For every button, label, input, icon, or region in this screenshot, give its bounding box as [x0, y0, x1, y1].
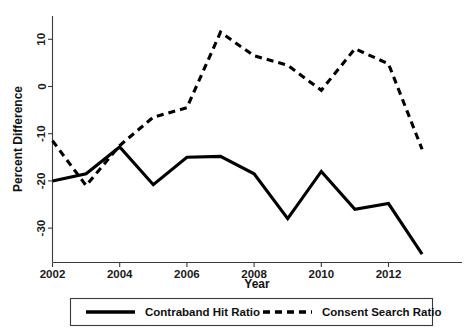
- y-tick-label: -20: [36, 173, 48, 190]
- percent-difference-line-chart: 100-10-20-30 200220042006200820102012 Pe…: [0, 0, 476, 333]
- y-tick-label: 10: [36, 33, 48, 46]
- legend: Contraband Hit Ratio Consent Search Rati…: [71, 299, 442, 326]
- y-tick-label: -10: [36, 125, 48, 142]
- y-axis-tick-labels: 100-10-20-30: [36, 33, 48, 237]
- y-tick-label: 0: [36, 83, 48, 89]
- x-axis-tick-labels: 200220042006200820102012: [40, 268, 402, 280]
- x-axis-ticks: [53, 263, 389, 268]
- x-tick-label: 2006: [174, 268, 200, 280]
- y-tick-label: -30: [36, 220, 48, 237]
- y-axis-title: Percent Difference: [11, 86, 25, 192]
- legend-label-contraband-hit-ratio: Contraband Hit Ratio: [145, 306, 260, 318]
- x-axis-title: Year: [244, 277, 270, 291]
- legend-label-consent-search-ratio: Consent Search Ratio: [322, 306, 442, 318]
- y-axis-ticks: [48, 39, 53, 228]
- x-tick-label: 2002: [40, 268, 66, 280]
- series-contraband-hit-ratio: [53, 147, 423, 254]
- x-tick-label: 2004: [107, 268, 133, 280]
- x-tick-label: 2012: [376, 268, 402, 280]
- x-tick-label: 2010: [309, 268, 335, 280]
- series-consent-search-ratio: [53, 32, 423, 185]
- chart-container: 100-10-20-30 200220042006200820102012 Pe…: [0, 0, 476, 333]
